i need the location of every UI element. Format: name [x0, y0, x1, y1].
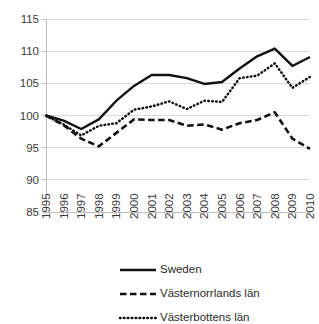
x-tick-label: 2001: [146, 193, 158, 219]
data-series-group: [46, 49, 310, 149]
axes-group: [42, 19, 310, 216]
legend-entry[interactable]: Sweden: [120, 263, 202, 275]
y-tick-label: 85: [26, 206, 39, 218]
legend-label: Västerbottens län: [160, 311, 250, 323]
x-tick-label: 2007: [251, 193, 263, 219]
legend-label: Västernorrlands län: [160, 287, 260, 299]
x-tick-label: 1997: [75, 193, 87, 219]
x-tick-label: 2009: [286, 193, 298, 219]
y-tick-label: 90: [26, 174, 39, 186]
x-tick-label: 2003: [181, 193, 193, 219]
x-tick-label: 2010: [304, 193, 316, 219]
legend-entry[interactable]: Västerbottens län: [120, 311, 250, 323]
series-line-dashed: [46, 112, 310, 149]
x-tick-label: 1995: [40, 193, 52, 219]
x-tick-label: 1999: [110, 193, 122, 219]
x-tick-label: 2005: [216, 193, 228, 219]
x-tick-label: 2008: [269, 193, 281, 219]
y-tick-label: 115: [21, 13, 39, 25]
x-tick-label: 2004: [198, 193, 210, 219]
x-tick-label: 2000: [128, 193, 140, 219]
x-tick-label: 1996: [58, 193, 70, 219]
y-tick-label: 95: [26, 142, 39, 154]
y-tick-label: 105: [20, 77, 39, 89]
chart-legend: SwedenVästernorrlands länVästerbottens l…: [120, 263, 260, 323]
series-line-dotted: [46, 63, 310, 135]
x-tick-label: 2002: [163, 193, 175, 219]
y-axis-tick-labels: 859095100105110115: [20, 13, 39, 218]
line-chart: 859095100105110115 199519961997199819992…: [0, 0, 319, 324]
y-tick-label: 110: [21, 45, 39, 57]
x-axis-tick-labels: 1995199619971998199920002001200220032004…: [40, 193, 316, 219]
legend-label: Sweden: [160, 263, 202, 275]
y-tick-label: 100: [20, 110, 39, 122]
chart-canvas: 859095100105110115 199519961997199819992…: [0, 0, 319, 324]
legend-entry[interactable]: Västernorrlands län: [120, 287, 260, 299]
x-tick-label: 2006: [234, 193, 246, 219]
series-line-solid: [46, 49, 310, 129]
x-tick-label: 1998: [93, 193, 105, 219]
